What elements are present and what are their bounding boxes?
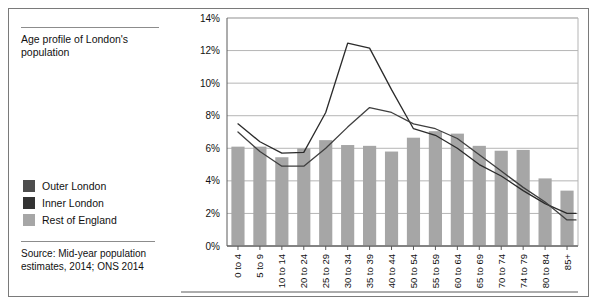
y-axis-tick-label: 4%	[206, 175, 221, 186]
bar-rest-of-england	[385, 152, 398, 246]
bar-rest-of-england	[451, 134, 464, 246]
legend-swatch-outer-london	[23, 180, 35, 192]
chart-legend: Outer London Inner London Rest of Englan…	[23, 177, 169, 228]
x-axis-tick-label: 55 to 59	[430, 254, 441, 288]
bar-rest-of-england	[363, 146, 376, 246]
bar-rest-of-england	[560, 191, 573, 246]
x-axis-tick-label: 80 to 84	[540, 254, 551, 288]
x-axis-tick-label: 0 to 4	[232, 254, 243, 278]
legend-item-inner-london: Inner London	[23, 194, 169, 211]
y-axis-tick-label: 2%	[206, 208, 221, 219]
bar-rest-of-england	[341, 145, 354, 246]
legend-label-outer-london: Outer London	[42, 180, 106, 192]
legend-swatch-inner-london	[23, 197, 35, 209]
x-axis-tick-label: 60 to 64	[452, 254, 463, 288]
chart-panel: Proportion of total population 0%2%4%6%8…	[177, 9, 588, 296]
x-axis-tick-label: 20 to 24	[298, 254, 309, 288]
x-axis-tick-label: 50 to 54	[408, 254, 419, 288]
bar-rest-of-england	[231, 147, 244, 246]
x-axis-tick-label: 74 to 79	[518, 254, 529, 288]
legend-item-outer-london: Outer London	[23, 177, 169, 194]
page-title: Age profile of London's population	[21, 33, 167, 59]
y-axis-tick-label: 10%	[200, 78, 220, 89]
y-axis-tick-label: 6%	[206, 143, 221, 154]
bar-rest-of-england	[495, 151, 508, 246]
y-axis-tick-label: 8%	[206, 110, 221, 121]
legend-item-rest-of-england: Rest of England	[23, 211, 169, 228]
y-axis-tick-label: 12%	[200, 45, 220, 56]
legend-label-inner-london: Inner London	[42, 197, 104, 209]
x-axis-tick-label: 5 to 9	[254, 254, 265, 278]
chart-plot: 0%2%4%6%8%10%12%14%0 to 45 to 910 to 142…	[177, 9, 588, 298]
bar-rest-of-england	[275, 157, 288, 246]
bar-rest-of-england	[429, 131, 442, 246]
source-divider	[21, 241, 155, 242]
figure-side-panel: Age profile of London's population Outer…	[9, 9, 177, 296]
bar-rest-of-england	[517, 150, 530, 246]
figure-container: Age profile of London's population Outer…	[8, 8, 589, 297]
legend-swatch-rest-of-england	[23, 214, 35, 226]
y-axis-tick-label: 0%	[206, 241, 221, 252]
x-axis-tick-label: 35 to 39	[364, 254, 375, 288]
legend-label-rest-of-england: Rest of England	[42, 214, 117, 226]
source-note: Source: Mid-year population estimates, 2…	[21, 247, 171, 273]
bar-rest-of-england	[539, 178, 552, 246]
x-axis-tick-label: 70 to 74	[496, 254, 507, 288]
bar-rest-of-england	[253, 147, 266, 246]
x-axis-tick-label: 85+	[562, 254, 573, 271]
y-axis-tick-label: 14%	[200, 13, 220, 24]
x-axis-tick-label: 25 to 29	[320, 254, 331, 288]
x-axis-tick-label: 65 to 69	[474, 254, 485, 288]
x-axis-tick-label: 10 to 14	[276, 254, 287, 288]
x-axis-tick-label: 40 to 44	[386, 254, 397, 288]
title-divider	[21, 27, 159, 28]
bar-rest-of-england	[407, 138, 420, 246]
bar-rest-of-england	[319, 140, 332, 246]
x-axis-tick-label: 30 to 34	[342, 254, 353, 288]
